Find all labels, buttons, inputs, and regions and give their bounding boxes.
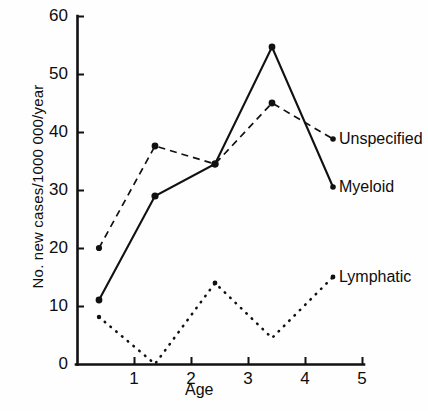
series-lymphatic-point bbox=[97, 315, 101, 319]
series-myeloid-point bbox=[211, 160, 218, 167]
series-myeloid-point bbox=[151, 192, 158, 199]
x-axis-title: Age bbox=[185, 381, 213, 399]
y-tick-label-0: 0 bbox=[26, 354, 68, 374]
series-lymphatic bbox=[97, 275, 336, 364]
series-myeloid-point bbox=[96, 297, 103, 304]
series-label-unspecified: Unspecified bbox=[339, 130, 423, 148]
leukaemia-incidence-line-chart: 60 50 40 30 20 10 0 1 2 3 4 5 No. new ca… bbox=[0, 0, 428, 411]
series-unspecified-line bbox=[99, 103, 333, 248]
series-label-myeloid: Myeloid bbox=[339, 178, 394, 196]
series-unspecified-point bbox=[152, 143, 159, 150]
series-myeloid-point bbox=[330, 184, 336, 190]
series-label-lymphatic: Lymphatic bbox=[339, 268, 411, 286]
series-unspecified-point bbox=[96, 245, 102, 251]
series-lymphatic-point bbox=[213, 281, 218, 286]
y-axis-title: No. new cases/1000 000/year bbox=[29, 62, 46, 312]
series-unspecified-point bbox=[269, 100, 276, 107]
series-lymphatic-line bbox=[99, 277, 333, 364]
series-lymphatic-point bbox=[331, 275, 336, 280]
series-myeloid-line bbox=[99, 47, 333, 300]
series-myeloid-point bbox=[269, 44, 276, 51]
y-tick-label-60: 60 bbox=[26, 6, 68, 26]
series-myeloid bbox=[96, 44, 336, 304]
series-unspecified bbox=[96, 100, 336, 252]
x-tick-label-4: 4 bbox=[293, 369, 317, 389]
plot-area bbox=[0, 0, 428, 411]
x-tick-label-3: 3 bbox=[236, 369, 260, 389]
axis-lines bbox=[76, 16, 364, 365]
series-unspecified-point bbox=[330, 136, 336, 142]
x-tick-label-5: 5 bbox=[350, 369, 374, 389]
x-tick-label-1: 1 bbox=[122, 369, 146, 389]
